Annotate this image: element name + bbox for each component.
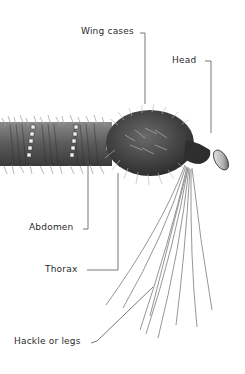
label-thorax: Thorax [45, 264, 77, 274]
label-abdomen: Abdomen [29, 222, 74, 232]
leader-head [205, 61, 211, 133]
abdomen [0, 115, 112, 174]
leader-hackle [91, 287, 153, 343]
hackle-fibers [106, 165, 212, 338]
label-hackle-or-legs: Hackle or legs [14, 336, 81, 346]
head [184, 140, 232, 173]
leader-abdomen [83, 159, 88, 229]
label-wing-cases: Wing cases [81, 26, 134, 36]
nymph-diagram: Wing cases Head Abdomen Thorax Hackle or… [0, 0, 245, 374]
nymph-illustration [0, 0, 245, 374]
label-head: Head [172, 55, 196, 65]
thorax [105, 104, 194, 185]
leader-wing-cases [140, 33, 145, 104]
leader-thorax [87, 173, 118, 270]
leader-lines [83, 33, 211, 343]
